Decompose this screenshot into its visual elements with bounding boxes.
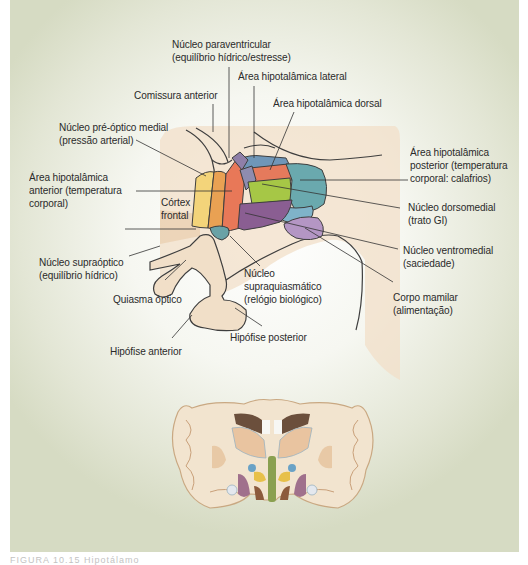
label-posterior-hypothalamic-area: Área hipotalâmica posterior (temperatura… — [410, 146, 508, 185]
label-line: Corpo mamilar — [393, 291, 458, 304]
coronal-brain-section — [172, 400, 373, 509]
label-line: (trato GI) — [408, 214, 495, 227]
label-medial-preoptic-nucleus: Núcleo pré-óptico medial (pressão arteri… — [59, 121, 168, 147]
label-supraoptic-nucleus: Núcleo supraóptico (equilíbrio hídrico) — [39, 256, 124, 282]
label-suprachiasmatic-nucleus: Núcleo supraquiasmático (relógio biológi… — [244, 267, 322, 306]
label-anterior-commissure: Comissura anterior — [134, 89, 217, 102]
label-paraventricular-nucleus: Núcleo paraventricular (equilíbrio hídri… — [172, 38, 291, 64]
label-line: Núcleo dorsomedial — [408, 201, 495, 214]
label-line: Quiasma óptico — [113, 293, 182, 306]
label-line: Núcleo paraventricular — [172, 38, 291, 51]
label-line: Área hipotalâmica lateral — [238, 70, 347, 83]
label-optic-chiasm: Quiasma óptico — [113, 293, 182, 306]
label-line: Área hipotalâmica dorsal — [273, 97, 382, 110]
label-line: Córtex — [161, 196, 190, 209]
label-line: (equilíbrio hídrico) — [39, 269, 124, 282]
label-posterior-pituitary: Hipófise posterior — [230, 331, 307, 344]
label-line: (alimentação) — [393, 304, 458, 317]
label-dorsal-hypothalamic-area: Área hipotalâmica dorsal — [273, 97, 382, 110]
label-line: (equilíbrio hídrico/estresse) — [172, 51, 291, 64]
label-line: Núcleo pré-óptico medial — [59, 121, 168, 134]
label-line: anterior (temperatura — [29, 184, 122, 197]
label-line: (pressão arterial) — [59, 134, 168, 147]
label-line: Hipófise posterior — [230, 331, 307, 344]
label-line: frontal — [161, 209, 190, 222]
figure-caption: FIGURA 10.15 Hipotálamo — [10, 555, 140, 565]
anterior-hypothalamic-area — [192, 171, 226, 230]
label-anterior-hypothalamic-area: Área hipotalâmica anterior (temperatura … — [29, 171, 122, 210]
label-line: Núcleo — [244, 267, 322, 280]
label-line: posterior (temperatura — [410, 159, 508, 172]
label-line: Núcleo ventromedial — [403, 244, 493, 257]
label-mammillary-body: Corpo mamilar (alimentação) — [393, 291, 458, 317]
label-line: Área hipotalâmica — [410, 146, 508, 159]
label-line: supraquiasmático — [244, 280, 322, 293]
label-line: corporal: calafrios) — [410, 172, 508, 185]
label-line: (relógio biológico) — [244, 293, 322, 306]
label-frontal-cortex: Córtex frontal — [161, 196, 190, 222]
label-line: corporal) — [29, 197, 122, 210]
label-line: (saciedade) — [403, 257, 493, 270]
label-line: Área hipotalâmica — [29, 171, 122, 184]
label-ventromedial-nucleus: Núcleo ventromedial (saciedade) — [403, 244, 493, 270]
label-lateral-hypothalamic-area: Área hipotalâmica lateral — [238, 70, 347, 83]
label-line: Núcleo supraóptico — [39, 256, 124, 269]
label-anterior-pituitary: Hipófise anterior — [110, 345, 182, 358]
label-line: Hipófise anterior — [110, 345, 182, 358]
label-line: Comissura anterior — [134, 89, 217, 102]
label-dorsomedial-nucleus: Núcleo dorsomedial (trato GI) — [408, 201, 495, 227]
posterior-hypothalamic-area — [286, 164, 327, 213]
